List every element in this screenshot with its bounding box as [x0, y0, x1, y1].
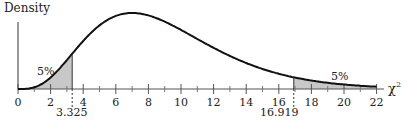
- lower-tail-percent: 5%: [37, 65, 54, 78]
- y-axis-label: Density: [4, 1, 50, 15]
- tick-label: 20: [337, 96, 351, 109]
- lower-critical-value: 3.325: [56, 106, 88, 119]
- upper-critical-value: 16.919: [260, 106, 299, 119]
- tick-label: 10: [174, 96, 188, 109]
- tick-label: 6: [112, 96, 119, 109]
- tick-label: 18: [304, 96, 318, 109]
- tick-label: 0: [15, 96, 22, 109]
- tick-label: 14: [239, 96, 253, 109]
- tick-label: 2: [47, 96, 54, 109]
- tick-label: 8: [145, 96, 152, 109]
- upper-tail-percent: 5%: [331, 70, 348, 83]
- tick-label: 22: [370, 96, 384, 109]
- chi-square-density-chart: 0246810121416182022 Density χ2 5% 5% 3.3…: [0, 0, 408, 125]
- tick-label: 12: [207, 96, 221, 109]
- x-axis-label: χ2: [388, 80, 401, 96]
